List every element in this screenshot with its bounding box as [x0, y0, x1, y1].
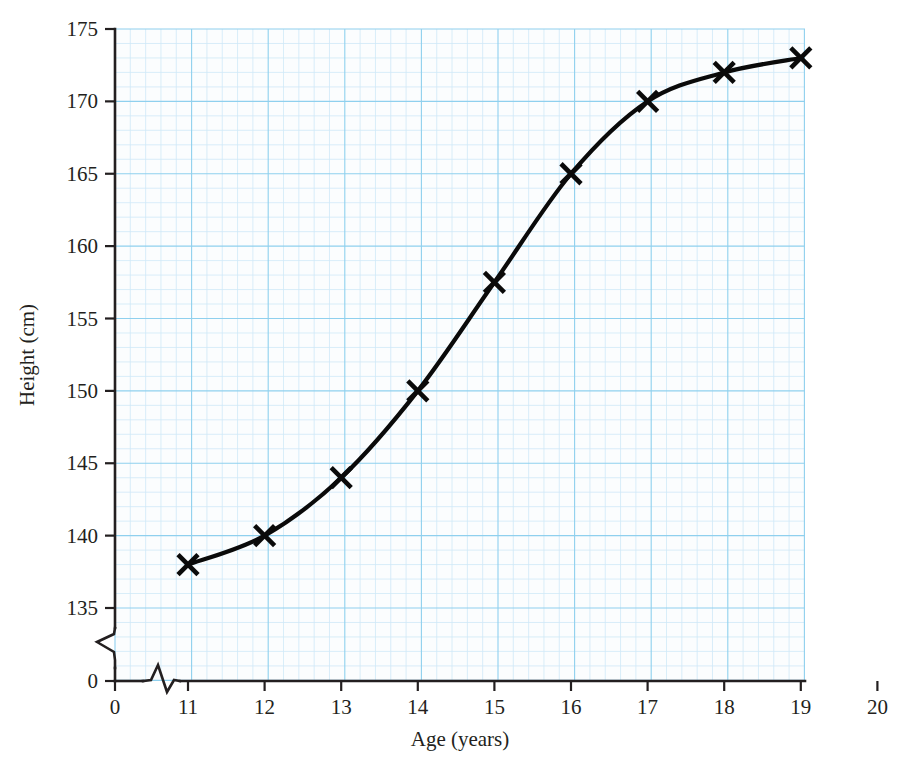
- x-axis-tick-label: 12: [254, 695, 275, 719]
- y-axis-tick-label: 165: [67, 162, 99, 186]
- x-axis-tick-label: 15: [484, 695, 505, 719]
- x-axis-tick-label: 20: [867, 695, 888, 719]
- x-axis-tick-label: 19: [790, 695, 811, 719]
- y-axis-tick-label: 140: [67, 524, 99, 548]
- y-axis-break-symbol: [97, 628, 115, 668]
- plot-background: [115, 29, 805, 680]
- y-axis-tick-label: 155: [67, 307, 99, 331]
- x-axis-title: Age (years): [411, 727, 510, 751]
- x-axis-tick-label: 0: [110, 695, 121, 719]
- y-axis-tick-label: 160: [67, 234, 99, 258]
- x-axis-tick-label: 17: [637, 695, 658, 719]
- x-axis-tick-label: 11: [178, 695, 198, 719]
- x-axis-tick-label: 14: [407, 695, 429, 719]
- y-axis-tick-label: 150: [67, 379, 99, 403]
- y-axis-tick-label: 0: [88, 669, 99, 693]
- y-axis-tick-label: 170: [67, 89, 99, 113]
- x-axis-tick-label: 18: [714, 695, 735, 719]
- x-axis-tick-label: 13: [331, 695, 352, 719]
- y-axis-tick-label: 145: [67, 451, 99, 475]
- x-axis-tick-label: 16: [561, 695, 582, 719]
- y-axis-tick-label: 175: [67, 17, 99, 41]
- y-axis-title: Height (cm): [15, 304, 39, 406]
- growth-chart: 0135140145150155160165170175011121314151…: [0, 0, 898, 762]
- chart-canvas: 0135140145150155160165170175011121314151…: [0, 0, 898, 762]
- y-axis-tick-label: 135: [67, 596, 99, 620]
